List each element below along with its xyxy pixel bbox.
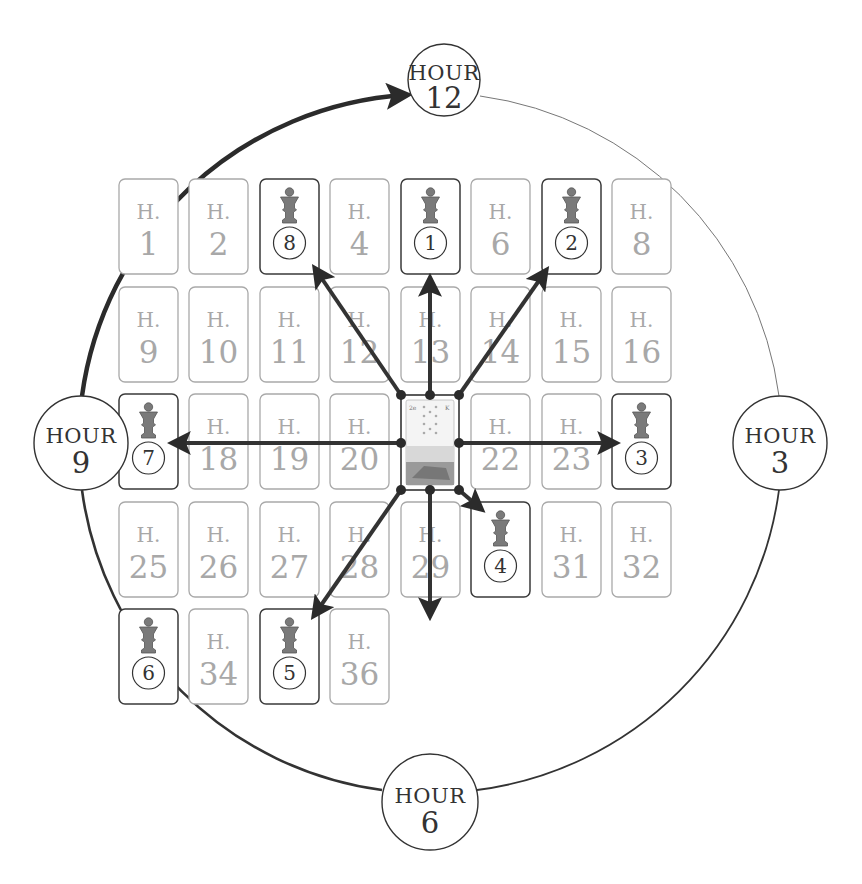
houses-diagram: H.1H.28H.41H.62H.8H.9H.10H.11H.12H.13H.1… bbox=[0, 0, 862, 884]
center-card-corner-right: K bbox=[445, 404, 450, 411]
house-number: 25 bbox=[129, 549, 168, 585]
house-6[interactable]: H.6 bbox=[471, 179, 530, 274]
hour-6-marker: HOUR 6 bbox=[382, 754, 478, 850]
hour-3-marker: HOUR 3 bbox=[733, 396, 827, 490]
house-prefix: H. bbox=[348, 200, 372, 224]
piece-number: 7 bbox=[142, 446, 155, 470]
hour-9-marker: HOUR 9 bbox=[34, 396, 128, 490]
house-number: 26 bbox=[199, 549, 238, 585]
house-number: 20 bbox=[340, 441, 379, 477]
house-7[interactable]: 2 bbox=[542, 179, 601, 274]
house-number: 8 bbox=[632, 226, 652, 262]
house-16[interactable]: H.16 bbox=[612, 287, 671, 382]
house-prefix: H. bbox=[560, 523, 584, 547]
hour-12-marker: HOUR 12 bbox=[408, 44, 480, 116]
house-number: 32 bbox=[622, 549, 661, 585]
house-32[interactable]: H.32 bbox=[612, 502, 671, 597]
center-card[interactable]: 2e K bbox=[401, 395, 459, 490]
house-prefix: H. bbox=[348, 630, 372, 654]
house-11[interactable]: H.11 bbox=[260, 287, 319, 382]
hour-3-label: HOUR bbox=[744, 424, 816, 448]
house-10[interactable]: H.10 bbox=[189, 287, 248, 382]
house-prefix: H. bbox=[630, 523, 654, 547]
piece-number: 6 bbox=[142, 661, 155, 685]
house-number: 27 bbox=[270, 549, 309, 585]
hour-12-number: 12 bbox=[426, 81, 463, 115]
house-1[interactable]: H.1 bbox=[119, 179, 178, 274]
house-number: 22 bbox=[481, 441, 520, 477]
piece-number: 3 bbox=[635, 446, 648, 470]
house-prefix: H. bbox=[489, 415, 513, 439]
house-prefix: H. bbox=[489, 308, 513, 332]
house-number: 34 bbox=[199, 656, 238, 692]
house-4[interactable]: H.4 bbox=[330, 179, 389, 274]
house-27[interactable]: H.27 bbox=[260, 502, 319, 597]
house-number: 16 bbox=[622, 334, 661, 370]
house-35[interactable]: 5 bbox=[260, 609, 319, 704]
house-number: 10 bbox=[199, 334, 238, 370]
house-prefix: H. bbox=[207, 523, 231, 547]
hour-9-number: 9 bbox=[72, 446, 90, 480]
center-card-corner-left: 2e bbox=[409, 404, 417, 411]
house-number: 11 bbox=[270, 334, 309, 370]
house-number: 4 bbox=[350, 226, 370, 262]
house-8[interactable]: H.8 bbox=[612, 179, 671, 274]
hour-3-number: 3 bbox=[771, 446, 789, 480]
house-number: 18 bbox=[199, 441, 238, 477]
piece-number: 2 bbox=[565, 231, 578, 255]
house-number: 31 bbox=[552, 549, 591, 585]
house-25[interactable]: H.25 bbox=[119, 502, 178, 597]
house-5[interactable]: 1 bbox=[401, 179, 460, 274]
house-24[interactable]: 3 bbox=[612, 394, 671, 489]
house-15[interactable]: H.15 bbox=[542, 287, 601, 382]
piece-number: 8 bbox=[283, 231, 296, 255]
house-prefix: H. bbox=[278, 523, 302, 547]
house-30[interactable]: 4 bbox=[471, 502, 530, 597]
house-36[interactable]: H.36 bbox=[330, 609, 389, 704]
hour-6-label: HOUR bbox=[394, 784, 466, 808]
house-prefix: H. bbox=[207, 630, 231, 654]
house-33[interactable]: 6 bbox=[119, 609, 178, 704]
piece-number: 1 bbox=[424, 231, 437, 255]
house-prefix: H. bbox=[630, 308, 654, 332]
piece-number: 4 bbox=[494, 554, 507, 578]
house-number: 36 bbox=[340, 656, 379, 692]
house-prefix: H. bbox=[207, 200, 231, 224]
house-34[interactable]: H.34 bbox=[189, 609, 248, 704]
house-3[interactable]: 8 bbox=[260, 179, 319, 274]
house-number: 15 bbox=[552, 334, 591, 370]
house-number: 9 bbox=[139, 334, 159, 370]
house-prefix: H. bbox=[560, 308, 584, 332]
house-number: 6 bbox=[491, 226, 511, 262]
house-2[interactable]: H.2 bbox=[189, 179, 248, 274]
house-number: 2 bbox=[209, 226, 229, 262]
house-prefix: H. bbox=[278, 308, 302, 332]
hour-9-label: HOUR bbox=[45, 424, 117, 448]
house-number: 23 bbox=[552, 441, 591, 477]
house-prefix: H. bbox=[137, 523, 161, 547]
house-number: 19 bbox=[270, 441, 309, 477]
house-26[interactable]: H.26 bbox=[189, 502, 248, 597]
house-prefix: H. bbox=[489, 200, 513, 224]
house-9[interactable]: H.9 bbox=[119, 287, 178, 382]
house-prefix: H. bbox=[348, 415, 372, 439]
house-prefix: H. bbox=[207, 308, 231, 332]
piece-number: 5 bbox=[283, 661, 296, 685]
house-prefix: H. bbox=[137, 200, 161, 224]
house-prefix: H. bbox=[560, 415, 584, 439]
hour-6-number: 6 bbox=[421, 806, 439, 840]
house-prefix: H. bbox=[630, 200, 654, 224]
house-prefix: H. bbox=[278, 415, 302, 439]
house-prefix: H. bbox=[137, 308, 161, 332]
house-number: 1 bbox=[139, 226, 159, 262]
house-prefix: H. bbox=[207, 415, 231, 439]
house-31[interactable]: H.31 bbox=[542, 502, 601, 597]
